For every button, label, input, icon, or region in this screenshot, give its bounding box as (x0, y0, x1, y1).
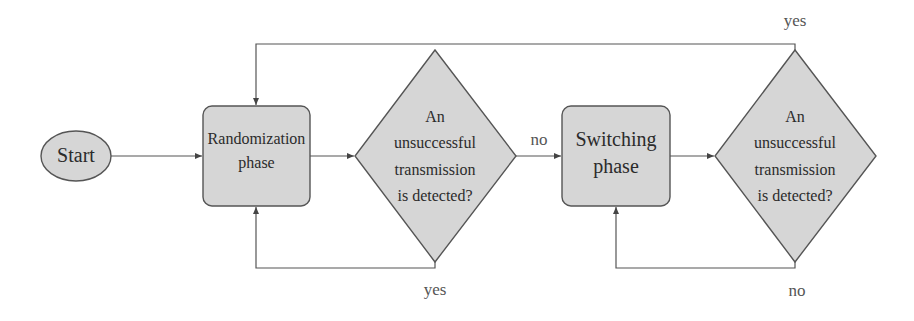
decision2-label-line1: An (735, 108, 855, 126)
randomization-label-line2: phase (203, 154, 310, 172)
decision1-label-line3: transmission (375, 161, 495, 179)
decision2-label-line3: transmission (735, 161, 855, 179)
decision1-label-line1: An (375, 108, 495, 126)
decision1-label: An unsuccessful transmission is detected… (375, 108, 495, 206)
randomization-label-line1: Randomization (203, 130, 310, 148)
randomization-label: Randomization phase (203, 130, 310, 173)
switching-label-line2: phase (562, 155, 670, 178)
edge-label-decision2-no: no (779, 281, 815, 301)
decision1-label-line2: unsuccessful (375, 134, 495, 152)
start-label: Start (41, 144, 111, 167)
decision2-label-line4: is detected? (735, 187, 855, 205)
decision2-label-line2: unsuccessful (735, 134, 855, 152)
edge-decision2-yes-loop (256, 44, 795, 105)
switching-label: Switching phase (562, 128, 670, 178)
decision2-label: An unsuccessful transmission is detected… (735, 108, 855, 206)
switching-label-line1: Switching (562, 128, 670, 151)
decision1-label-line4: is detected? (375, 187, 495, 205)
edge-label-decision1-no: no (522, 130, 556, 150)
edge-label-decision1-yes: yes (415, 280, 455, 300)
edge-label-decision2-yes: yes (775, 11, 815, 31)
